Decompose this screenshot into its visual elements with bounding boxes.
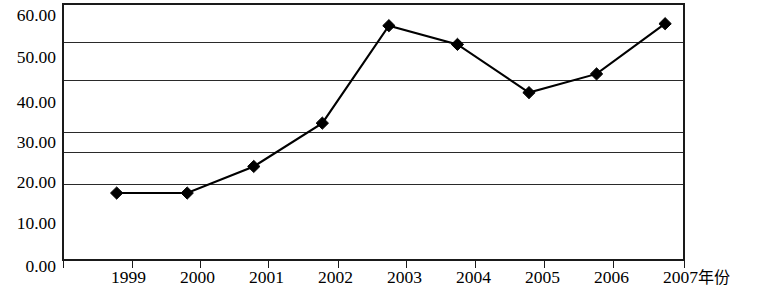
gridline (64, 80, 683, 81)
x-axis-tick-label-text: 2001 (249, 267, 284, 287)
data-point-marker (451, 38, 463, 50)
y-axis-tick-label: 0.00 (0, 258, 56, 276)
data-point-marker (659, 18, 671, 30)
x-axis-tick-label: 1999 (111, 269, 146, 287)
y-axis-tick-label: 40.00 (0, 94, 56, 112)
x-axis-tick-label-text: 2005 (525, 267, 560, 287)
data-point-marker (181, 187, 193, 199)
y-axis-tick-label: 20.00 (0, 174, 56, 192)
y-axis-tick-label: 30.00 (0, 134, 56, 152)
x-axis-tick-label: 2001 (249, 269, 284, 287)
line-chart: 60.0050.0040.0030.0020.0010.000.00 19992… (0, 0, 761, 295)
x-axis-tick-label-text: 2006 (594, 267, 629, 287)
x-axis-tick-label: 2003 (387, 269, 422, 287)
x-axis-tick (63, 261, 64, 268)
x-axis-tick-label-text: 2007 (663, 267, 698, 287)
x-axis-tick-label: 2004 (456, 269, 491, 287)
x-axis-tick-label: 2006 (594, 269, 629, 287)
x-axis-tick-label: 2002 (318, 269, 353, 287)
x-axis-tick-label-text: 2002 (318, 267, 353, 287)
data-point-marker (248, 160, 260, 172)
y-axis-tick-label: 10.00 (0, 215, 56, 233)
gridline (64, 152, 683, 153)
gridline (64, 132, 683, 133)
x-axis-tick-label-text: 2004 (456, 267, 491, 287)
x-axis-tick-label: 2000 (180, 269, 215, 287)
x-axis-tick-label-text: 1999 (111, 267, 146, 287)
data-point-marker (590, 68, 602, 80)
x-axis-tick-label: 2005 (525, 269, 560, 287)
data-point-marker (316, 117, 328, 129)
series-line (117, 24, 665, 193)
gridline (64, 42, 683, 43)
x-axis-tick-label: 2007年份 (663, 269, 730, 287)
y-axis-tick-label: 50.00 (0, 49, 56, 67)
x-axis-tick-label-text: 2000 (180, 267, 215, 287)
plot-area (62, 3, 685, 261)
data-point-marker (383, 20, 395, 32)
y-axis-tick-label: 60.00 (0, 7, 56, 25)
series-markers (110, 18, 671, 200)
data-point-marker (110, 187, 122, 199)
data-point-marker (523, 87, 535, 99)
x-axis-tick-label-text: 2003 (387, 267, 422, 287)
x-axis-unit-label: 年份 (698, 268, 730, 287)
gridline (64, 184, 683, 185)
